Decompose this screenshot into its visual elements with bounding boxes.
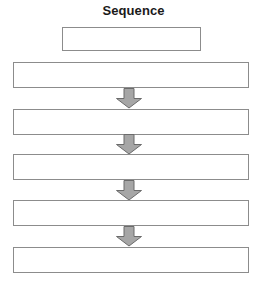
down-arrow-icon-4	[115, 226, 143, 247]
sequence-box-6[interactable]	[13, 247, 249, 273]
down-arrow-icon-2	[115, 134, 143, 155]
sequence-box-2[interactable]	[13, 62, 249, 88]
sequence-box-4[interactable]	[13, 154, 249, 180]
sequence-box-3[interactable]	[13, 109, 249, 135]
diagram-title: Sequence	[0, 3, 261, 18]
sequence-box-4-label	[14, 155, 248, 179]
sequence-box-6-label	[14, 248, 248, 272]
sequence-box-1-label	[63, 28, 200, 50]
down-arrow-icon-1	[115, 88, 143, 109]
down-arrow-icon-3	[115, 180, 143, 201]
sequence-box-5[interactable]	[13, 200, 249, 226]
sequence-box-3-label	[14, 110, 248, 134]
sequence-diagram: Sequence	[0, 0, 261, 286]
sequence-box-5-label	[14, 201, 248, 225]
sequence-box-2-label	[14, 63, 248, 87]
sequence-box-1[interactable]	[62, 27, 201, 51]
